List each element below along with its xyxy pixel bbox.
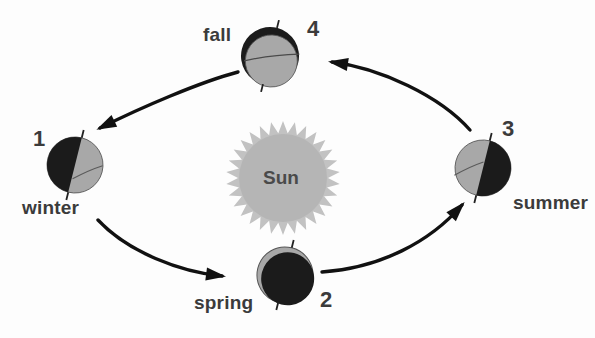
- arrow-head: [96, 115, 117, 130]
- season-label-spring: spring: [194, 292, 253, 314]
- arrow-shaft: [100, 72, 238, 128]
- season-label-summer: summer: [513, 192, 588, 214]
- position-number-spring: 2: [320, 287, 332, 313]
- axis-tick-south: [276, 302, 278, 310]
- arrow-head: [328, 58, 349, 71]
- axis-tick-south: [474, 195, 476, 203]
- arrow-shaft: [322, 205, 462, 272]
- sun-label: Sun: [263, 167, 299, 189]
- position-number-winter: 1: [33, 126, 45, 152]
- axis-tick-north: [292, 240, 294, 248]
- season-label-fall: fall: [203, 24, 231, 46]
- axis-tick-north: [490, 133, 492, 141]
- arrow-spring-to-summer: [322, 202, 465, 272]
- arrow-head: [205, 268, 226, 281]
- earth-fall[interactable]: [233, 13, 307, 99]
- position-number-summer: 3: [502, 116, 514, 142]
- axis-tick-north: [277, 20, 279, 28]
- earth-spring[interactable]: [249, 233, 323, 317]
- position-number-fall: 4: [307, 16, 319, 42]
- arrow-shaft: [98, 220, 222, 276]
- arrow-fall-to-winter: [96, 72, 238, 130]
- seasons-diagram: Sun winter1spring2summer3fall4: [0, 0, 595, 338]
- axis-tick-north: [82, 130, 84, 138]
- arrow-winter-to-spring: [98, 220, 226, 280]
- arrow-summer-to-fall: [328, 58, 470, 130]
- earth-winter[interactable]: [39, 123, 111, 206]
- arrow-shaft: [332, 62, 470, 130]
- season-label-winter: winter: [22, 197, 79, 219]
